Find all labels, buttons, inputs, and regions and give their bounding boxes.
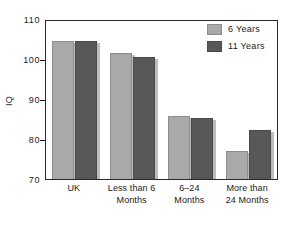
y-tick-label: 90	[14, 95, 40, 105]
bar	[52, 41, 74, 179]
y-tick-label: 70	[14, 175, 40, 185]
legend-label: 11 Years	[228, 41, 265, 51]
x-axis-tick-labels: UKLess than 6Months6–24MonthsMore than24…	[45, 183, 278, 225]
y-axis-tick-labels: 110 100 90 80 70	[14, 0, 40, 228]
y-tick-label: 80	[14, 135, 40, 145]
x-tick-label: Less than 6Months	[103, 183, 161, 206]
bar	[226, 151, 248, 179]
legend-swatch	[207, 24, 222, 35]
bar	[133, 57, 155, 179]
legend-item: 6 Years	[207, 22, 281, 36]
bar	[249, 130, 271, 179]
bar	[75, 41, 97, 179]
x-tick-label: More than24 Months	[218, 183, 276, 206]
y-tick-label: 110	[14, 15, 40, 25]
bar	[110, 53, 132, 179]
y-axis-title: IQ	[4, 86, 14, 116]
legend-item: 11 Years	[207, 39, 281, 53]
x-tick-label: 6–24Months	[161, 183, 219, 206]
bar-chart: IQ 110 100 90 80 70 UKLess than 6Months6…	[0, 0, 290, 228]
legend-swatch	[207, 41, 222, 52]
x-tick-label: UK	[45, 183, 103, 195]
y-tick-label: 100	[14, 55, 40, 65]
bar	[191, 118, 213, 179]
legend-label: 6 Years	[228, 24, 260, 34]
bar	[168, 116, 190, 179]
chart-legend: 6 Years11 Years	[207, 22, 281, 56]
